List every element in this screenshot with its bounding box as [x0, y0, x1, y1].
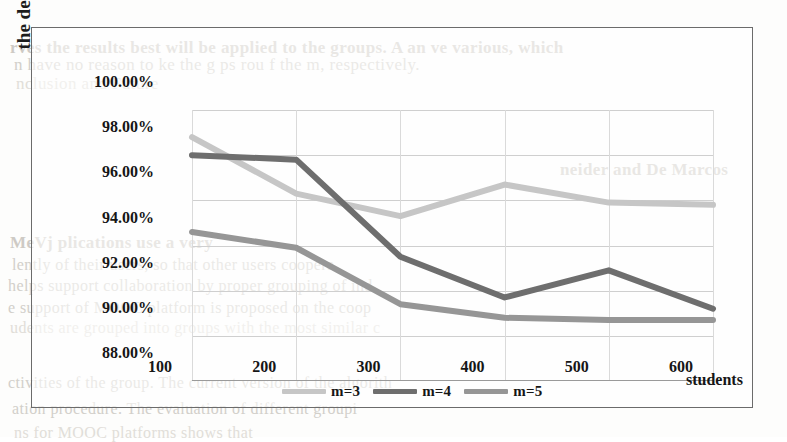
- y-axis-tick-label: 94.00%: [42, 209, 154, 227]
- legend-swatch-icon: [373, 389, 417, 394]
- legend-label: m=4: [422, 383, 451, 400]
- y-axis-tick-labels: 100.00%98.00%96.00%94.00%92.00%90.00%88.…: [40, 82, 154, 353]
- legend-swatch-icon: [282, 389, 326, 394]
- x-axis-tick-label: 300: [333, 358, 403, 376]
- series-lines: [192, 110, 713, 381]
- x-axis-tick-label: 200: [229, 358, 299, 376]
- y-axis-tick-label: 100.00%: [42, 73, 154, 91]
- legend-label: m=5: [513, 383, 542, 400]
- legend-item: m=3: [282, 383, 360, 400]
- y-axis-tick-label: 96.00%: [42, 163, 154, 181]
- series-line-m3: [192, 137, 713, 216]
- x-axis-tick-labels: 100200300400500600: [160, 358, 681, 382]
- gridline-vertical: [713, 110, 714, 381]
- x-axis-tick-label: 500: [542, 358, 612, 376]
- y-axis-tick-label: 98.00%: [42, 118, 154, 136]
- plot-area: [192, 110, 713, 381]
- legend-item: m=4: [373, 383, 451, 400]
- x-axis-title: students: [686, 371, 743, 389]
- y-axis-tick-label: 90.00%: [42, 299, 154, 317]
- legend-swatch-icon: [464, 389, 508, 394]
- legend-label: m=3: [331, 383, 360, 400]
- background-text-line: ns for MOOC platforms shows that: [14, 424, 253, 442]
- y-axis-title-label: the decline of variance of groups: [13, 0, 35, 50]
- legend-item: m=5: [464, 383, 542, 400]
- y-axis-title: the decline of variance of groups: [13, 0, 35, 58]
- y-axis-tick-label: 92.00%: [42, 254, 154, 272]
- x-axis-tick-label: 400: [438, 358, 508, 376]
- chart-legend: m=3m=4m=5: [282, 383, 542, 400]
- x-axis-tick-label: 100: [125, 358, 195, 376]
